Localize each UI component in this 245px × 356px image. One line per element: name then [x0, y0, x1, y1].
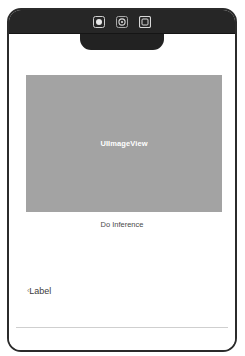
result-label-text: Label	[29, 286, 51, 296]
record-icon[interactable]	[93, 16, 105, 28]
do-inference-button[interactable]: Do Inference	[9, 220, 235, 229]
device-screen: UIImageView Do Inference ‹ Label	[9, 34, 235, 350]
editor-canvas: UIImageView Do Inference ‹ Label	[0, 0, 245, 356]
screenshot-icon[interactable]	[139, 16, 151, 28]
device-notch	[80, 34, 164, 50]
image-view-placeholder[interactable]: UIImageView	[26, 75, 222, 212]
bottom-separator	[16, 327, 228, 328]
settings-gear-icon[interactable]	[116, 16, 128, 28]
result-label[interactable]: ‹ Label	[27, 286, 51, 296]
image-view-label: UIImageView	[100, 139, 147, 148]
device-frame: UIImageView Do Inference ‹ Label	[7, 8, 237, 352]
simulator-toolbar	[9, 10, 235, 34]
